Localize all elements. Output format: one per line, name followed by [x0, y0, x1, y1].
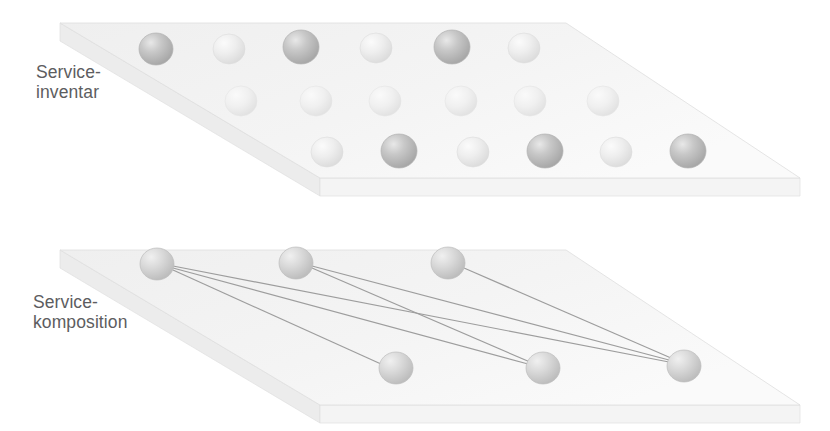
sphere-comp-back-3[interactable]: [431, 247, 465, 279]
sphere-inv-r2-c3[interactable]: [369, 86, 401, 116]
sphere-inv-r3-c3[interactable]: [457, 137, 489, 167]
service-layer-diagram: Service- inventar Service- komposition: [0, 0, 830, 431]
sphere-inv-r3-c6[interactable]: [670, 134, 706, 168]
sphere-inv-r1-c4[interactable]: [360, 33, 392, 63]
sphere-comp-front-3[interactable]: [667, 350, 701, 382]
sphere-inv-r2-c2[interactable]: [300, 86, 332, 116]
sphere-inv-r2-c5[interactable]: [514, 86, 546, 116]
sphere-inv-r1-c6[interactable]: [508, 33, 540, 63]
sphere-inv-r2-c6[interactable]: [587, 86, 619, 116]
sphere-comp-front-1[interactable]: [379, 352, 413, 384]
sphere-comp-front-2[interactable]: [526, 352, 560, 384]
sphere-inv-r3-c4[interactable]: [527, 134, 563, 168]
sphere-inv-r2-c4[interactable]: [445, 86, 477, 116]
sphere-inv-r1-c5[interactable]: [434, 30, 470, 64]
service-composition-plane: [60, 250, 800, 423]
label-service-inventory: Service- inventar: [36, 62, 101, 102]
sphere-inv-r3-c1[interactable]: [311, 137, 343, 167]
label-service-composition: Service- komposition: [33, 292, 127, 332]
sphere-inv-r1-c2[interactable]: [213, 34, 245, 64]
sphere-inv-r3-c2[interactable]: [381, 134, 417, 168]
diagram-canvas: [0, 0, 830, 431]
plane-front-face: [320, 178, 800, 196]
sphere-inv-r1-c1[interactable]: [139, 33, 173, 65]
sphere-inv-r2-c1[interactable]: [225, 86, 257, 116]
sphere-comp-back-2[interactable]: [279, 247, 313, 279]
sphere-inv-r1-c3[interactable]: [283, 30, 319, 64]
sphere-inv-r3-c5[interactable]: [600, 137, 632, 167]
sphere-comp-back-1[interactable]: [140, 248, 174, 280]
plane-front-face: [320, 405, 800, 423]
